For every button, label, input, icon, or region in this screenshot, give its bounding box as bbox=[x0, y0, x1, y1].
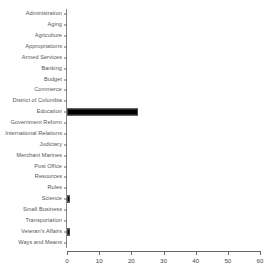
category-label: Judiciary bbox=[39, 142, 62, 148]
y-axis-tick bbox=[64, 36, 67, 37]
y-axis-tick bbox=[64, 177, 67, 178]
category-label: District of Columbia bbox=[13, 99, 63, 105]
category-label: Small Business bbox=[23, 207, 62, 213]
bar-row: Small Business bbox=[67, 205, 260, 216]
category-label: Ways and Means bbox=[18, 240, 62, 246]
x-axis-tick bbox=[164, 251, 165, 255]
bar-chart: AdministrationAgingAgricultureAppropriat… bbox=[0, 0, 264, 271]
bar-row: Ways and Means bbox=[67, 237, 260, 248]
y-axis-tick bbox=[64, 209, 67, 210]
x-axis-tick-label: 60 bbox=[257, 258, 264, 264]
x-axis-tick-label: 20 bbox=[128, 258, 135, 264]
y-axis-tick bbox=[64, 220, 67, 221]
bar-row: Commerce bbox=[67, 85, 260, 96]
y-axis-tick bbox=[64, 166, 67, 167]
category-label: Appropriations bbox=[25, 44, 62, 50]
x-axis-tick-label: 30 bbox=[160, 258, 167, 264]
x-axis-tick-label: 0 bbox=[65, 258, 68, 264]
bar-row: Banking bbox=[67, 63, 260, 74]
y-axis-tick bbox=[64, 101, 67, 102]
y-axis-tick bbox=[64, 79, 67, 80]
bar-row: Agriculture bbox=[67, 31, 260, 42]
category-label: Education bbox=[37, 109, 62, 115]
category-label: Banking bbox=[41, 66, 62, 72]
category-label: International Relations bbox=[5, 131, 62, 137]
x-axis-tick bbox=[131, 251, 132, 255]
y-axis-tick bbox=[64, 25, 67, 26]
x-axis-tick bbox=[196, 251, 197, 255]
category-label: Government Reform bbox=[10, 120, 62, 126]
y-axis-tick bbox=[64, 188, 67, 189]
bar-row: Merchant Marines bbox=[67, 150, 260, 161]
x-axis-tick bbox=[67, 251, 68, 255]
y-axis-tick bbox=[64, 242, 67, 243]
bar-row: Science bbox=[67, 194, 260, 205]
bar-row: Education bbox=[67, 107, 260, 118]
bar-row: Administration bbox=[67, 9, 260, 20]
bar-row: Budget bbox=[67, 74, 260, 85]
category-label: Science bbox=[42, 196, 62, 202]
bar-row: International Relations bbox=[67, 129, 260, 140]
bar-row: Aging bbox=[67, 20, 260, 31]
bar-row: Transportation bbox=[67, 215, 260, 226]
category-label: Resources bbox=[35, 175, 62, 181]
x-axis-tick-label: 40 bbox=[192, 258, 199, 264]
x-axis-tick-label: 50 bbox=[224, 258, 231, 264]
y-axis-tick bbox=[64, 155, 67, 156]
bar-row: Veteran's Affairs bbox=[67, 226, 260, 237]
y-axis-tick bbox=[64, 123, 67, 124]
bar-row: Judiciary bbox=[67, 139, 260, 150]
y-axis-tick bbox=[64, 144, 67, 145]
y-axis-tick bbox=[64, 47, 67, 48]
category-label: Budget bbox=[44, 77, 62, 83]
x-axis-tick bbox=[260, 251, 261, 255]
bar bbox=[67, 196, 70, 203]
y-axis-tick bbox=[64, 68, 67, 69]
x-axis-tick bbox=[99, 251, 100, 255]
category-label: Armed Services bbox=[22, 55, 62, 61]
y-axis-tick bbox=[64, 14, 67, 15]
x-axis: 0102030405060 bbox=[67, 251, 260, 271]
y-axis-tick bbox=[64, 90, 67, 91]
bar-row: Post Office bbox=[67, 161, 260, 172]
bar bbox=[67, 228, 70, 235]
x-axis-tick bbox=[228, 251, 229, 255]
bar-row: Rules bbox=[67, 183, 260, 194]
category-label: Commerce bbox=[34, 88, 62, 94]
bar-row: Resources bbox=[67, 172, 260, 183]
y-axis-tick bbox=[64, 57, 67, 58]
x-axis-tick-label: 10 bbox=[96, 258, 103, 264]
category-label: Aging bbox=[47, 22, 62, 28]
category-label: Rules bbox=[47, 185, 62, 191]
bar-row: District of Columbia bbox=[67, 96, 260, 107]
category-label: Agriculture bbox=[35, 33, 62, 39]
bar-row: Government Reform bbox=[67, 118, 260, 129]
category-label: Merchant Marines bbox=[16, 153, 62, 159]
y-axis-tick bbox=[64, 133, 67, 134]
category-label: Administration bbox=[26, 12, 62, 18]
bar-row: Appropriations bbox=[67, 42, 260, 53]
category-label: Veteran's Affairs bbox=[21, 229, 62, 235]
plot-area: AdministrationAgingAgricultureAppropriat… bbox=[67, 9, 260, 248]
bar-row: Armed Services bbox=[67, 52, 260, 63]
category-label: Post Office bbox=[34, 164, 62, 170]
category-label: Transportation bbox=[25, 218, 62, 224]
bar bbox=[67, 109, 138, 116]
